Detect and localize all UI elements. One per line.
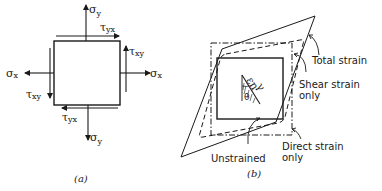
shear-strain-label-line2: only [299, 90, 320, 101]
tau-xy-right-label: τxy [129, 45, 145, 58]
shear-strain-label-line1: Shear strain [299, 79, 360, 90]
caption-a: (a) [74, 173, 88, 184]
figure-b-strain-diagram: θ εn γ Total strain Shear strain only Di… [181, 16, 367, 179]
unstrained-leader [248, 118, 260, 144]
direct-strain-label-line1: Direct strain [282, 141, 344, 152]
theta-label: θ [244, 92, 250, 102]
caption-b: (b) [247, 168, 261, 179]
element-square [54, 41, 120, 105]
sigma-y-top-label: σy [89, 3, 102, 18]
sigma-x-left-label: σx [6, 67, 19, 80]
tau-yx-top-label: τyx [100, 21, 116, 34]
stress-strain-figure: σy τyx τxy σx σx τxy τyx σy (a) [0, 0, 382, 191]
sigma-y-bottom-label: σy [90, 131, 103, 146]
tau-xy-left-label: τxy [26, 88, 42, 101]
angle-inset: θ εn γ [242, 75, 268, 104]
tau-yx-bottom-label: τyx [62, 111, 78, 124]
unstrained-label: Unstrained [211, 153, 266, 164]
direct-strain-label-line2: only [282, 152, 303, 163]
total-strain-label: Total strain [311, 55, 367, 66]
figure-a-stress-element: σy τyx τxy σx σx τxy τyx σy (a) [6, 3, 163, 184]
sigma-x-right-label: σx [150, 67, 163, 80]
